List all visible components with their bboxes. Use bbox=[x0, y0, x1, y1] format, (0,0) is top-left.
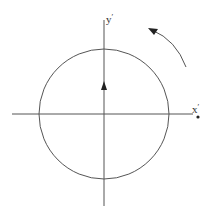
x-axis-label: x′ bbox=[192, 103, 200, 115]
point-marker bbox=[196, 115, 199, 118]
up-arrow-icon bbox=[101, 81, 107, 90]
rotation-arc bbox=[152, 30, 186, 67]
y-axis-label: y′ bbox=[106, 13, 114, 25]
rotating-frame-diagram: y′ x′ bbox=[0, 0, 209, 216]
rotation-arrowhead-icon bbox=[148, 28, 158, 35]
